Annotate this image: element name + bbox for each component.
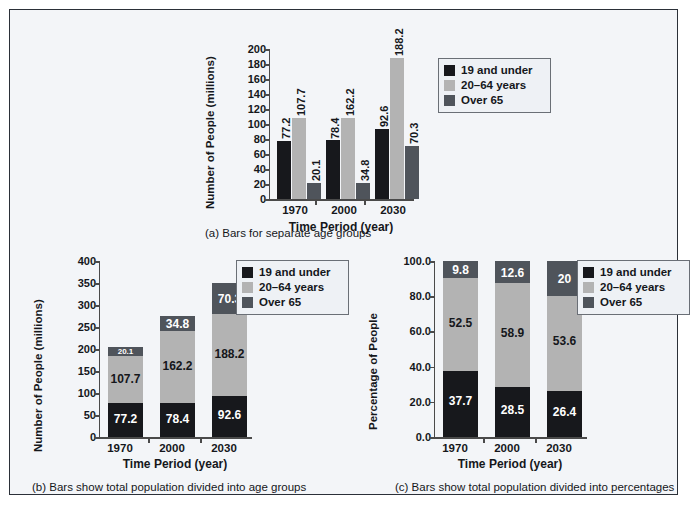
bar-2030-under19 [375,129,389,199]
segment-1970-under19-pct: 37.7 [443,371,478,437]
y-tick [264,49,269,51]
stack-1970-pct: 37.7 52.5 9.8 [443,261,478,437]
legend-item-20-64: 20–64 years [242,280,341,295]
legend-swatch-icon [242,282,253,293]
legend-swatch-icon [583,297,594,308]
segment-2030-under19-pct: 26.4 [547,391,582,438]
y-tick [94,437,99,439]
y-tick [94,393,99,395]
segment-2000-under19: 78.4 [160,403,195,438]
segment-value-label: 188.2 [212,347,247,361]
segment-value-label: 92.6 [212,408,247,422]
y-tick [264,139,269,141]
y-tick [264,184,269,186]
caption-b: (b) Bars show total population divided i… [32,481,306,493]
segment-value-label: 107.7 [108,372,143,386]
legend-label: 20–64 years [461,80,526,92]
figure-panel: Number of People (millions) 200 180 160 … [9,9,678,495]
segment-value-label: 37.7 [443,394,478,408]
chart-a-y-axis: 200 180 160 140 120 100 80 60 40 20 0 [196,34,266,199]
segment-1970-20-64: 107.7 [108,356,143,403]
chart-c-legend: 19 and under 20–64 years Over 65 [577,260,690,315]
legend-label: Over 65 [600,297,642,309]
bar-2030-20-64 [390,58,404,199]
chart-a: Number of People (millions) 200 180 160 … [196,34,566,234]
y-tick [264,169,269,171]
segment-1970-under19: 77.2 [108,403,143,437]
chart-c-x-axis-title: Time Period (year) [435,457,585,471]
legend-swatch-icon [444,80,455,91]
chart-b: Number of People (millions) 400 350 300 … [20,252,350,467]
y-tick [264,124,269,126]
x-tick-label: 2000 [320,204,368,216]
y-tick [429,402,434,404]
segment-2030-20-64: 188.2 [212,314,247,397]
y-tick-label: 100.0 [403,255,431,267]
y-tick [94,415,99,417]
legend-swatch-icon [444,65,455,76]
caption-a: (a) Bars for separate age groups [205,227,371,239]
y-tick-label: 40.0 [410,361,431,373]
legend-label: Over 65 [461,95,503,107]
y-tick [94,349,99,351]
bar-1970-under19 [277,141,291,199]
legend-item-under19: 19 and under [444,63,543,78]
legend-item-20-64: 20–64 years [444,78,543,93]
caption-c: (c) Bars show total population divided i… [395,481,674,493]
y-tick [429,331,434,333]
legend-swatch-icon [583,267,594,278]
x-axis-line [269,199,414,201]
bar-value-label: 20.1 [310,160,322,181]
y-tick [429,437,434,439]
segment-2000-over65-pct: 12.6 [495,261,530,283]
bar-value-label: 34.8 [359,160,371,181]
chart-a-legend: 19 and under 20–64 years Over 65 [438,58,551,113]
segment-value-label: 52.5 [443,316,478,330]
y-tick [94,305,99,307]
bar-value-label: 92.6 [378,106,390,127]
y-tick-label: 60.0 [410,325,431,337]
bar-value-label: 162.2 [344,88,356,116]
legend-swatch-icon [242,297,253,308]
legend-swatch-icon [242,267,253,278]
segment-2000-over65: 34.8 [160,316,195,331]
segment-value-label: 28.5 [495,403,530,417]
segment-value-label: 20.1 [108,347,143,356]
bar-1970-20-64 [292,118,306,199]
legend-item-over65: Over 65 [444,93,543,108]
segment-value-label: 26.4 [547,405,582,419]
y-tick [264,64,269,66]
chart-b-y-axis: 400 350 300 250 200 150 100 50 0 [34,252,96,437]
y-tick [429,296,434,298]
bar-value-label: 70.3 [408,123,420,144]
x-tick-label: 2000 [146,442,198,454]
legend-item-over65: Over 65 [583,295,682,310]
legend-label: 19 and under [600,267,672,279]
x-tick-label: 2030 [198,442,250,454]
y-tick [264,109,269,111]
segment-1970-over65-pct: 9.8 [443,261,478,278]
bar-value-label: 107.7 [295,88,307,116]
segment-1970-over65: 20.1 [108,347,143,356]
y-tick [264,79,269,81]
bar-2030-over65 [405,146,419,199]
x-tick-label: 2030 [369,204,417,216]
segment-value-label: 58.9 [495,326,530,340]
y-tick [264,154,269,156]
x-tick-label: 1970 [429,442,481,454]
x-tick-label: 2000 [481,442,533,454]
x-tick-label: 1970 [271,204,319,216]
legend-label: 19 and under [259,267,331,279]
bar-value-label: 188.2 [393,28,405,56]
segment-1970-20-64-pct: 52.5 [443,278,478,370]
legend-item-under19: 19 and under [242,265,341,280]
y-tick [94,261,99,263]
chart-b-x-axis-title: Time Period (year) [100,457,250,471]
y-tick [264,94,269,96]
legend-label: 20–64 years [259,282,324,294]
chart-a-plot-area: 77.2 107.7 20.1 78.4 162.2 34.8 92.6 188… [270,49,412,199]
segment-2000-20-64: 162.2 [160,331,195,402]
segment-value-label: 53.6 [547,334,582,348]
segment-value-label: 34.8 [160,317,195,331]
legend-swatch-icon [583,282,594,293]
